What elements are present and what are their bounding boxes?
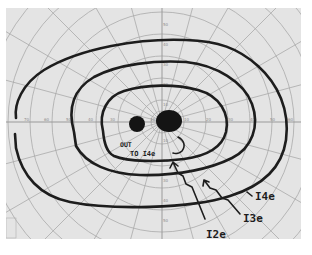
perimetry-chart: 70 60 50 40 30 20 10 10 20 30 40 50 60 5… [6, 8, 301, 239]
label-i4e: I4e [255, 190, 275, 203]
perimetry-svg: 70 60 50 40 30 20 10 10 20 30 40 50 60 5… [6, 8, 301, 239]
tick-h-right-20: 20 [206, 117, 212, 122]
tick-h-right-10: 10 [184, 117, 190, 122]
tick-h-right-30: 30 [228, 117, 234, 122]
label-i2e: I2e [206, 228, 226, 239]
label-to-i4e: TO I4e [130, 150, 155, 158]
grid-rings [6, 8, 301, 239]
tick-v-top-40: 40 [163, 42, 169, 47]
tick-v-top-10: 10 [163, 102, 169, 107]
tick-h-left-40: 40 [88, 117, 94, 122]
tick-h-left-10: 10 [150, 117, 156, 122]
label-out: OUT [120, 141, 132, 149]
arrow-i4e [247, 192, 252, 196]
central-scotoma [156, 110, 182, 132]
tick-h-right-50: 50 [270, 117, 276, 122]
tick-h-right-60: 60 [288, 117, 294, 122]
tick-v-top-50: 50 [163, 22, 169, 27]
label-i3e: I3e [243, 212, 263, 225]
tick-v-bottom-40: 40 [163, 198, 169, 203]
tick-h-left-30: 30 [110, 117, 116, 122]
blind-spot [129, 116, 145, 132]
legend-box [6, 218, 16, 238]
grid-meridians [6, 8, 301, 239]
tick-h-left-70: 70 [24, 117, 30, 122]
tick-v-bottom-30: 30 [163, 178, 169, 183]
tick-v-bottom-50: 50 [163, 218, 169, 223]
tick-h-left-60: 60 [44, 117, 50, 122]
tick-v-bottom-10: 10 [163, 138, 169, 143]
